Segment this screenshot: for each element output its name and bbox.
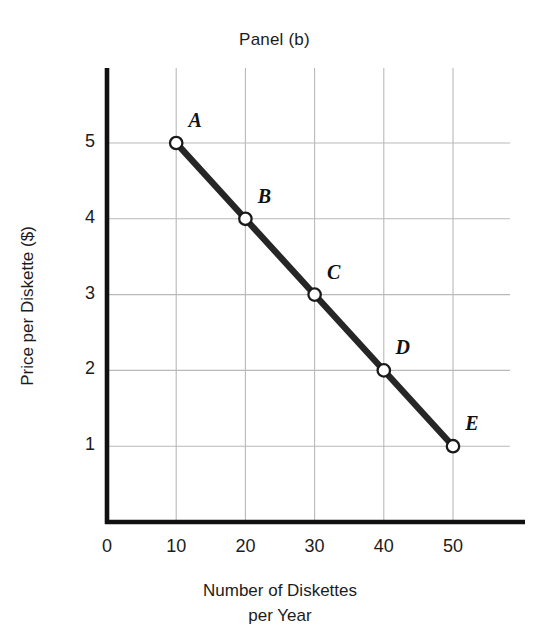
x-tick-label-50: 50 [433,536,473,557]
point-label-B: B [252,185,276,208]
x-axis-title-line-1: Number of Diskettes [203,581,357,600]
y-tick-label-3: 3 [65,283,95,304]
y-tick-label-1: 1 [65,434,95,455]
y-tick-label-4: 4 [65,207,95,228]
x-axis-title: Number of Diskettes per Year [107,578,453,628]
x-tick-label-30: 30 [295,536,335,557]
point-label-D: D [391,336,415,359]
point-label-E: E [460,412,484,435]
x-tick-label-20: 20 [225,536,265,557]
data-point-B [239,213,251,225]
x-axis-title-line-2: per Year [107,603,453,628]
y-tick-label-5: 5 [65,131,95,152]
x-tick-label-0: 0 [87,536,127,557]
data-point-A [170,137,182,149]
data-point-E [447,440,459,452]
x-tick-label-40: 40 [364,536,404,557]
chart-figure: Panel (b) Price per Diskette ($) 12345 0… [0,0,549,638]
point-label-A: A [183,109,207,132]
data-point-D [378,364,390,376]
x-tick-label-10: 10 [156,536,196,557]
data-point-C [308,288,320,300]
y-tick-label-2: 2 [65,358,95,379]
point-label-C: C [322,261,346,284]
